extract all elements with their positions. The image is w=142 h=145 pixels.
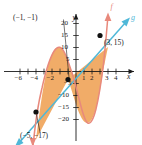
x-tick-label-2: 2 — [90, 75, 94, 82]
x-tick-label--2: −2 — [47, 75, 54, 82]
y-tick-label--15: −15 — [58, 104, 69, 111]
y-tick-label--20: −20 — [58, 116, 69, 123]
x-tick-label-3: 3 — [105, 75, 109, 82]
annotation-point-neg5-neg17: (−5, −17) — [20, 132, 48, 139]
plot-canvas — [0, 0, 142, 145]
x-tick-label-4: 4 — [114, 75, 118, 82]
y-tick-label--10: −10 — [58, 92, 69, 99]
y-tick-label-20: 20 — [61, 20, 68, 27]
curve-f-arrow-end — [105, 13, 112, 22]
curve-f-label: f — [111, 3, 113, 11]
annotation-point-neg1-neg1: (−1, −1) — [13, 14, 37, 21]
point-marker-3-15 — [97, 33, 102, 38]
x-axis-label: x — [127, 73, 130, 81]
shaded-region-right — [68, 47, 108, 123]
y-tick-label-5: 5 — [66, 56, 70, 63]
y-tick-label-15: 15 — [61, 32, 68, 39]
x-tick-label--4: −4 — [31, 75, 38, 82]
y-tick-label--5: −5 — [64, 80, 71, 87]
math-graph-figure: y x −6 −4 −2 1 2 3 4 20 15 10 5 −5 −10 −… — [0, 0, 142, 145]
y-axis-label: y — [73, 14, 76, 22]
annotation-point-3-15: (3, 15) — [104, 39, 124, 46]
curve-g-label: g — [131, 14, 135, 22]
x-tick-label--6: −6 — [15, 75, 22, 82]
y-tick-label-10: 10 — [61, 44, 68, 51]
x-tick-label-1: 1 — [82, 75, 86, 82]
point-marker-neg5 — [33, 109, 38, 114]
